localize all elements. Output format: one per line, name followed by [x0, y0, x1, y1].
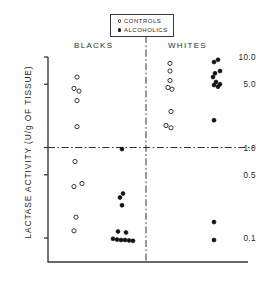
data-point — [213, 71, 217, 75]
series-whites-controls — [164, 61, 174, 130]
data-point — [72, 229, 76, 233]
data-point — [131, 239, 135, 243]
data-point — [168, 69, 172, 73]
data-point — [170, 87, 174, 91]
data-point — [118, 196, 122, 200]
y-tick-label: 1.0 — [210, 143, 256, 152]
y-tick-label: 5.0 — [210, 80, 256, 89]
data-point — [80, 181, 84, 185]
data-point — [123, 238, 127, 242]
data-point — [211, 75, 215, 79]
series-blacks-controls — [72, 75, 84, 233]
y-tick-label: 0.1 — [210, 234, 256, 243]
legend-entry-alcoholics: ALCOHOLICS — [115, 26, 168, 34]
series-blacks-alcoholics — [111, 147, 135, 243]
data-point — [72, 86, 76, 90]
legend-entry-controls: CONTROLS — [115, 17, 168, 25]
data-point — [168, 78, 172, 82]
y-tick-label: 0.5 — [210, 170, 256, 179]
lactase-activity-figure: LACTASE ACTIVITY (U/g OF TISSUE) CONTROL… — [0, 0, 256, 285]
y-axis-title: LACTASE ACTIVITY (U/g OF TISSUE) — [23, 42, 33, 262]
data-point — [212, 118, 216, 122]
group-label-whites: WHITES — [168, 41, 207, 50]
legend-label-alcoholics: ALCOHOLICS — [124, 26, 168, 34]
group-label-blacks: BLACKS — [74, 41, 113, 50]
data-point — [115, 238, 119, 242]
legend: CONTROLS ALCOHOLICS — [110, 14, 174, 37]
data-point — [124, 231, 128, 235]
data-point — [116, 229, 120, 233]
data-point — [73, 159, 77, 163]
data-point — [120, 147, 124, 151]
data-point — [75, 75, 79, 79]
data-point — [169, 109, 173, 113]
data-point — [169, 126, 173, 130]
data-point — [121, 192, 125, 196]
legend-label-controls: CONTROLS — [124, 17, 161, 25]
y-tick-label: 10.0 — [210, 53, 256, 62]
data-point — [127, 238, 131, 242]
data-point — [111, 237, 115, 241]
data-point — [164, 123, 168, 127]
data-point — [168, 61, 172, 65]
filled-circle-icon — [115, 28, 124, 32]
data-point — [119, 238, 123, 242]
data-point — [72, 184, 76, 188]
data-point — [120, 203, 124, 207]
data-point — [77, 89, 81, 93]
open-circle-icon — [115, 19, 124, 22]
data-point — [75, 98, 79, 102]
data-point — [212, 220, 216, 224]
data-point — [218, 69, 222, 73]
data-point — [74, 215, 78, 219]
data-point — [75, 125, 79, 129]
